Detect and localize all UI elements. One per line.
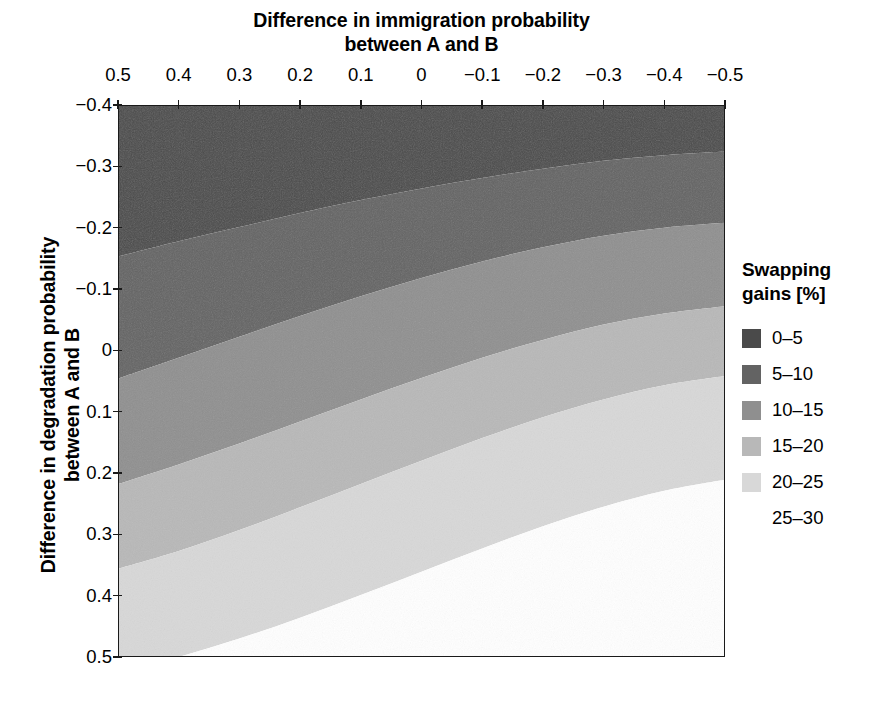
x-axis-tick-labels: 0.50.40.30.20.10−0.1−0.2−0.3−0.4−0.5 (118, 64, 725, 88)
legend-items: 0–55–1010–1515–2020–2525–30 (742, 320, 881, 536)
x-tick-label-8: −0.3 (585, 64, 622, 86)
legend: Swapping gains [%] 0–55–1010–1515–2020–2… (742, 258, 881, 536)
legend-item[interactable]: 10–15 (742, 392, 881, 428)
x-tick-label-0: 0.5 (105, 64, 131, 86)
legend-item[interactable]: 0–5 (742, 320, 881, 356)
legend-item-label: 10–15 (772, 399, 823, 421)
x-tick-label-2: 0.3 (227, 64, 253, 86)
legend-item-label: 5–10 (772, 363, 813, 385)
x-axis-title-line-2: between A and B (118, 32, 725, 56)
y-tick-label-0: −0.4 (75, 94, 112, 116)
legend-item[interactable]: 20–25 (742, 464, 881, 500)
x-tick-label-6: −0.1 (464, 64, 501, 86)
legend-item[interactable]: 25–30 (742, 500, 881, 536)
y-tick-label-9: 0.5 (86, 646, 112, 668)
x-tick-label-3: 0.2 (287, 64, 313, 86)
plot-area (118, 105, 725, 657)
x-tick-label-10: −0.5 (707, 64, 744, 86)
legend-title: Swapping gains [%] (742, 258, 881, 306)
y-tick-label-8: 0.4 (86, 585, 112, 607)
contour-figure: Difference in immigration probability be… (0, 0, 881, 720)
y-tick-label-6: 0.2 (86, 462, 112, 484)
y-axis-title: Difference in degradation probability be… (36, 125, 84, 685)
legend-item-label: 20–25 (772, 471, 823, 493)
y-axis-title-line-1: Difference in degradation probability (36, 125, 60, 685)
x-tick-label-1: 0.4 (166, 64, 192, 86)
x-tick-label-7: −0.2 (525, 64, 562, 86)
x-tick-label-4: 0.1 (348, 64, 374, 86)
y-tick-label-7: 0.3 (86, 523, 112, 545)
x-tick-label-9: −0.4 (646, 64, 683, 86)
legend-swatch-icon (742, 509, 761, 528)
y-axis-title-line-2: between A and B (60, 125, 84, 685)
legend-item-label: 0–5 (772, 327, 803, 349)
contour-bands (118, 105, 725, 657)
x-axis-title-line-1: Difference in immigration probability (118, 8, 725, 32)
legend-swatch-icon (742, 365, 761, 384)
legend-swatch-icon (742, 437, 761, 456)
legend-swatch-icon (742, 473, 761, 492)
y-tick-label-4: 0 (102, 339, 112, 361)
legend-item[interactable]: 15–20 (742, 428, 881, 464)
legend-title-line-1: Swapping (742, 258, 881, 282)
y-tick-label-5: 0.1 (86, 401, 112, 423)
legend-item-label: 15–20 (772, 435, 823, 457)
legend-swatch-icon (742, 401, 761, 420)
legend-item-label: 25–30 (772, 507, 823, 529)
legend-swatch-icon (742, 329, 761, 348)
x-axis-title: Difference in immigration probability be… (118, 8, 725, 56)
legend-title-line-2: gains [%] (742, 282, 881, 306)
legend-item[interactable]: 5–10 (742, 356, 881, 392)
x-tick-label-5: 0 (416, 64, 426, 86)
